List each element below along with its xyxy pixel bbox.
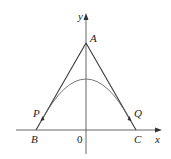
origin-label: 0 <box>77 133 83 145</box>
x-axis <box>16 128 162 133</box>
y-axis <box>84 13 89 154</box>
y-axis-label: y <box>77 10 83 22</box>
diagram-canvas: y x 0 A B C P Q <box>0 0 171 159</box>
y-axis-arrow-icon <box>84 13 89 20</box>
point-P-label: P <box>32 107 40 119</box>
x-axis-label: x <box>154 133 160 145</box>
point-A-label: A <box>89 32 97 44</box>
x-axis-arrow-icon <box>155 128 162 133</box>
point-C-label: C <box>134 133 142 145</box>
point-Q-label: Q <box>134 107 142 119</box>
point-B-label: B <box>31 133 38 145</box>
